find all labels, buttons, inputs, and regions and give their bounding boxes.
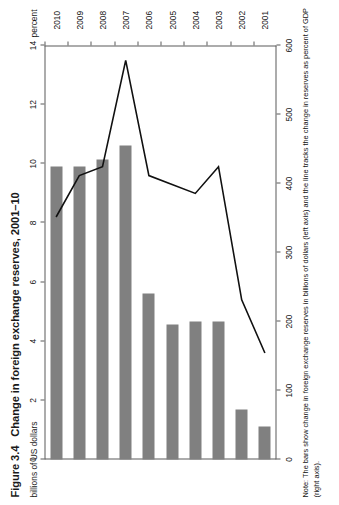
year-tick [160,41,161,45]
dollars-tick [276,320,280,321]
dollars-tick-label: 600 [283,38,293,52]
dollars-tick [276,251,280,252]
percent-tick [40,281,44,282]
year-tick [67,41,68,45]
chart-plot-area: 0100200300400500600 02468101214 20012002… [44,45,276,459]
year-tick [230,41,231,45]
year-tick [206,41,207,45]
rotated-page-container: Figure 3.4Change in foreign exchange res… [0,0,339,505]
year-label-2004: 2004 [190,10,200,29]
percent-line-series [44,45,276,459]
year-tick [114,41,115,45]
year-tick [44,41,45,45]
dollars-tick [276,389,280,390]
percent-tick [40,399,44,400]
percent-tick-label: 2 [27,398,37,403]
year-tick [137,41,138,45]
figure-number: Figure 3.4 [8,445,20,497]
year-tick [253,41,254,45]
figure-note: Note: The bars show change in foreign ex… [300,7,321,497]
year-label-2007: 2007 [120,10,130,29]
percent-tick-label: 10 [27,159,37,168]
dollars-tick-label: 300 [283,245,293,259]
year-tick [90,41,91,45]
percent-tick [40,162,44,163]
percent-tick-label: 6 [27,279,37,284]
dollars-tick-label: 200 [283,314,293,328]
dollars-tick-label: 400 [283,176,293,190]
percent-tick [40,103,44,104]
percent-tick [40,458,44,459]
year-label-2009: 2009 [74,10,84,29]
year-label-2005: 2005 [167,10,177,29]
percent-tick [40,221,44,222]
dollars-tick-label: 100 [283,383,293,397]
dollars-tick [276,182,280,183]
year-label-2010: 2010 [51,10,61,29]
dollars-tick-label: 0 [283,457,293,462]
year-label-2006: 2006 [143,10,153,29]
dollars-tick [276,44,280,45]
year-label-2008: 2008 [97,10,107,29]
percent-tick [40,340,44,341]
figure-title-text: Change in foreign exchange reserves, 200… [8,192,20,436]
dollars-tick-label: 500 [283,107,293,121]
percent-tick-label: 4 [27,338,37,343]
percent-tick-label: 12 [27,99,37,108]
figure-page: Figure 3.4Change in foreign exchange res… [0,0,339,505]
year-label-2002: 2002 [236,10,246,29]
percent-tick-label: 0 [27,457,37,462]
dollars-tick [276,458,280,459]
percent-tick-label: 8 [27,220,37,225]
percent-tick [40,44,44,45]
year-label-2001: 2001 [259,10,269,29]
year-label-2003: 2003 [213,10,223,29]
right-axis-unit-label: percent [28,9,38,37]
year-tick [183,41,184,45]
dollars-tick [276,113,280,114]
figure-title: Figure 3.4Change in foreign exchange res… [8,192,20,497]
percent-tick-label: 14 [27,40,37,49]
